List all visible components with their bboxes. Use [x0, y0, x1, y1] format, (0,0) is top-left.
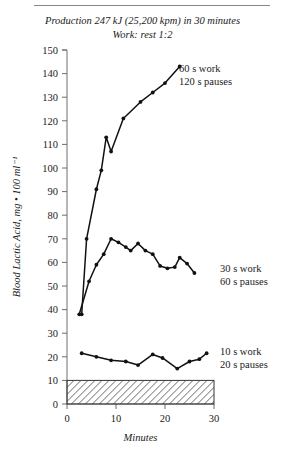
data-point-marker	[136, 242, 140, 246]
data-point-marker	[173, 265, 177, 269]
data-point-marker	[109, 150, 113, 154]
data-point-marker	[77, 312, 81, 316]
data-point-marker	[109, 358, 113, 362]
hatch-stripe	[148, 380, 172, 404]
y-axis-title: Blood Lactic Acid, mg • 100 ml⁻¹	[11, 157, 22, 298]
series-label-line2: 60 s pauses	[220, 276, 268, 287]
hatch-stripe	[113, 380, 137, 404]
hatch-stripe	[225, 380, 249, 404]
y-tick-label: 40	[48, 304, 59, 315]
hatch-stripe	[99, 380, 123, 404]
y-axis: 0102030405060708090100110120130140150	[42, 45, 67, 410]
y-tick-label: 150	[42, 45, 58, 56]
y-tick-label: 140	[42, 68, 58, 79]
series-label-line2: 120 s pauses	[179, 76, 232, 87]
series-line	[79, 239, 194, 315]
hatch-stripe	[197, 380, 221, 404]
data-point-marker	[124, 360, 128, 364]
hatch-stripe	[78, 380, 102, 404]
x-tick-label: 20	[160, 413, 171, 424]
y-tick-label: 20	[48, 352, 59, 363]
hatch-stripe	[92, 380, 116, 404]
data-point-marker	[124, 245, 128, 249]
hatch-stripe	[85, 380, 109, 404]
x-tick-label: 10	[111, 413, 122, 424]
hatch-stripe	[141, 380, 165, 404]
x-axis-title: Minutes	[123, 432, 158, 443]
hatch-stripe	[232, 380, 256, 404]
hatch-stripe	[183, 380, 207, 404]
y-tick-label: 30	[48, 328, 59, 339]
data-point-marker	[99, 168, 103, 172]
data-point-marker	[109, 237, 113, 241]
y-tick-label: 60	[48, 257, 59, 268]
data-point-marker	[197, 357, 201, 361]
data-point-marker	[95, 187, 99, 191]
data-point-marker	[151, 353, 155, 357]
data-point-marker	[175, 367, 179, 371]
y-tick-label: 100	[42, 163, 58, 174]
hatch-stripe	[204, 380, 228, 404]
data-point-marker	[161, 356, 165, 360]
data-point-marker	[121, 117, 125, 121]
data-point-marker	[185, 262, 189, 266]
hatch-stripe	[134, 380, 158, 404]
hatch-stripe	[176, 380, 200, 404]
y-tick-label: 110	[43, 139, 58, 150]
data-point-marker	[104, 135, 108, 139]
series-label-line2: 20 s pauses	[220, 359, 268, 370]
data-point-marker	[151, 91, 155, 95]
series-label-line1: 10 s work	[220, 346, 262, 357]
data-point-marker	[139, 100, 143, 104]
y-tick-label: 10	[48, 375, 59, 386]
data-point-marker	[144, 249, 148, 253]
chart-figure: Production 247 kJ (25,200 kpm) in 30 min…	[0, 0, 285, 473]
data-series	[80, 65, 182, 317]
data-point-marker	[193, 271, 197, 275]
hatch-stripe	[106, 380, 130, 404]
y-tick-label: 80	[48, 210, 59, 221]
y-tick-label: 0	[53, 399, 58, 410]
hatch-stripe	[57, 380, 81, 404]
data-point-marker	[95, 355, 99, 359]
data-point-marker	[205, 351, 209, 355]
series-label-line1: 60 s work	[179, 63, 221, 74]
hatch-stripe	[120, 380, 144, 404]
hatch-stripe	[218, 380, 242, 404]
data-point-marker	[188, 360, 192, 364]
hatch-stripe	[155, 380, 179, 404]
y-tick-label: 50	[48, 281, 59, 292]
hatch-stripe	[71, 380, 95, 404]
y-tick-label: 130	[42, 92, 58, 103]
chart-plot: 0102030405060708090100110120130140150 01…	[0, 0, 285, 473]
data-point-marker	[178, 256, 182, 260]
hatch-stripe	[127, 380, 151, 404]
data-point-marker	[80, 351, 84, 355]
x-tick-label: 30	[209, 413, 220, 424]
data-series	[80, 351, 209, 370]
data-point-marker	[129, 249, 133, 253]
hatch-stripe	[64, 380, 88, 404]
y-tick-label: 120	[42, 116, 58, 127]
x-tick-label: 0	[64, 413, 69, 424]
band-hatching	[43, 380, 256, 404]
data-point-marker	[136, 363, 140, 367]
y-tick-label: 90	[48, 186, 59, 197]
data-series	[77, 237, 196, 316]
data-point-marker	[85, 237, 89, 241]
series-label-group: 60 s work120 s pauses30 s work60 s pause…	[179, 63, 268, 370]
data-series-group	[77, 65, 208, 371]
data-point-marker	[87, 279, 91, 283]
data-point-marker	[158, 264, 162, 268]
data-point-marker	[117, 240, 121, 244]
data-point-marker	[166, 266, 170, 270]
data-point-marker	[95, 263, 99, 267]
hatch-stripe	[211, 380, 235, 404]
y-tick-label: 70	[48, 234, 59, 245]
data-point-marker	[151, 252, 155, 256]
data-point-marker	[163, 81, 167, 85]
series-label-line1: 30 s work	[220, 263, 262, 274]
data-point-marker	[102, 252, 106, 256]
hatch-stripe	[169, 380, 193, 404]
hatch-stripe	[162, 380, 186, 404]
